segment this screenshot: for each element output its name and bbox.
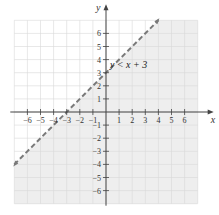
inequality-graph: −6−5−4−3−2−1123456−6−5−4−3−2−1123456 x y…: [0, 0, 219, 215]
y-tick-label: 3: [97, 69, 101, 78]
inequality-annotation: y < x + 3: [109, 59, 147, 70]
y-axis-label: y: [95, 2, 101, 13]
y-tick-label: −1: [92, 121, 101, 130]
x-tick-label: −2: [76, 116, 85, 125]
y-tick-label: −3: [92, 147, 101, 156]
y-tick-label: 5: [97, 43, 101, 52]
x-tick-label: −6: [23, 116, 32, 125]
y-tick-label: 4: [97, 56, 101, 65]
x-tick-label: 1: [117, 116, 121, 125]
y-tick-label: −4: [92, 160, 101, 169]
x-tick-label: 2: [130, 116, 134, 125]
x-tick-label: 3: [143, 116, 147, 125]
x-tick-label: 6: [183, 116, 187, 125]
y-tick-label: 6: [97, 29, 101, 38]
y-tick-label: −5: [92, 174, 101, 183]
x-tick-label: −5: [36, 116, 45, 125]
x-tick-label: 4: [156, 116, 160, 125]
y-tick-label: −6: [92, 187, 101, 196]
y-tick-label: −2: [92, 134, 101, 143]
y-tick-label: 1: [97, 95, 101, 104]
y-tick-label: 2: [97, 82, 101, 91]
x-tick-label: 5: [170, 116, 174, 125]
y-axis-arrow-icon: [104, 4, 109, 10]
x-tick-label: −4: [49, 116, 58, 125]
x-tick-label: −3: [62, 116, 71, 125]
x-axis-label: x: [210, 114, 216, 125]
